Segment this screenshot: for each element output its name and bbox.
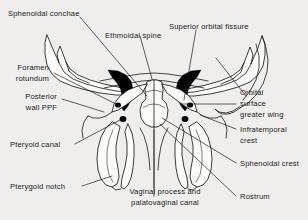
leader-ethmoidal-spine (140, 36, 152, 79)
label-foramen-rotundum-line2: rotundum (16, 74, 49, 83)
leader-posterior-wall-ppf (62, 99, 104, 112)
label-orbital-surface-line2: surface (240, 99, 266, 108)
label-infratemporal-crest-line2: crest (240, 136, 258, 145)
label-infratemporal-crest-line1: Infratemporal (240, 125, 287, 134)
left-outer-sweep (82, 116, 88, 138)
right-pterygoid-canal (182, 116, 189, 122)
right-foramen-rotundum (187, 102, 193, 107)
label-posterior-wall-ppf-line2: wall PPF (25, 103, 57, 112)
label-pterygoid-notch: Pterygoid notch (10, 182, 65, 191)
label-posterior-wall-ppf-line1: Posterior (25, 92, 57, 101)
label-orbital-surface-line1: Orbital (240, 88, 264, 97)
right-vaginal-process (158, 128, 168, 170)
label-sphenoidal-crest: Sphenoidal crest (240, 159, 300, 168)
left-vaginal-process (140, 128, 150, 170)
label-foramen-rotundum-line1: Foramen (18, 63, 49, 72)
left-infratemporal-shelf (88, 112, 112, 118)
right-outer-sweep (221, 116, 227, 138)
label-pteryoid-canal: Pteryoid canal (10, 140, 60, 149)
left-pterygoid-canal (120, 116, 127, 122)
label-rostrum: Rostrum (240, 192, 270, 201)
left-foramen-rotundum (115, 102, 121, 107)
left-medial-pterygoid-plate (121, 124, 134, 189)
label-superior-orbital-fissure: Superior orbital fissure (169, 22, 249, 31)
label-vaginal-process-line2: palatovaginal canal (131, 198, 199, 207)
left-pterygoid-notch (112, 187, 121, 190)
bone-illustration (45, 35, 268, 196)
sphenoid-bone-diagram: Sphenoidal conchae Ethmoidal spine Super… (0, 0, 308, 220)
label-sphenoidal-conchae: Sphenoidal conchae (8, 9, 80, 18)
label-vaginal-process-line1: Vaginal process and (129, 187, 200, 196)
label-ethmoidal-spine: Ethmoidal spine (105, 31, 161, 40)
right-medial-pterygoid-plate (175, 124, 188, 189)
label-orbital-surface-line3: greater wing (240, 110, 284, 119)
right-lateral-process (215, 107, 240, 114)
